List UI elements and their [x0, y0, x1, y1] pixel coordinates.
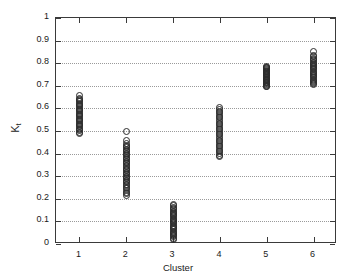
y-axis-tick-label: 0.1 [5, 215, 49, 224]
scatter-chart-figure: 00.10.20.30.40.50.60.70.80.91 123456 Kt … [0, 0, 356, 280]
y-axis-tick [330, 199, 335, 200]
x-axis-tick-label: 6 [298, 250, 328, 259]
y-axis-tick-label: 0.9 [5, 35, 49, 44]
data-point [123, 137, 130, 144]
x-axis-tick-label: 1 [63, 250, 93, 259]
y-axis-tick-label: 0.8 [5, 57, 49, 66]
x-axis-tick [79, 237, 80, 242]
y-axis-tick [330, 41, 335, 42]
y-axis-tick [56, 63, 61, 64]
y-axis-title: Kt [9, 111, 21, 145]
y-axis-tick [330, 86, 335, 87]
y-axis-tick [56, 41, 61, 42]
gridline [56, 221, 335, 222]
y-axis-tick [56, 154, 61, 155]
y-axis-tick [330, 176, 335, 177]
y-axis-tick-label: 0.3 [5, 170, 49, 179]
gridline [56, 154, 335, 155]
gridline [56, 108, 335, 109]
x-axis-tick-label: 3 [157, 250, 187, 259]
x-axis-tick [220, 18, 221, 23]
y-axis-tick [330, 221, 335, 222]
y-axis-tick [330, 154, 335, 155]
y-axis-tick [330, 244, 335, 245]
x-axis-tick [79, 18, 80, 23]
x-axis-tick [220, 237, 221, 242]
y-axis-tick [56, 86, 61, 87]
x-axis-tick [173, 18, 174, 23]
gridline [56, 41, 335, 42]
y-axis-tick [330, 18, 335, 19]
y-axis-tick [56, 221, 61, 222]
y-axis-tick [56, 131, 61, 132]
gridline [56, 199, 335, 200]
x-axis-tick [126, 18, 127, 23]
data-point [170, 201, 177, 208]
y-axis-tick [330, 63, 335, 64]
plot-area [55, 17, 336, 243]
y-axis-tick-label: 0.7 [5, 80, 49, 89]
x-axis-tick [267, 237, 268, 242]
gridline [56, 176, 335, 177]
gridline [56, 63, 335, 64]
x-axis-tick-label: 5 [251, 250, 281, 259]
y-axis-tick [56, 108, 61, 109]
gridline [56, 131, 335, 132]
x-axis-tick [267, 18, 268, 23]
x-axis-tick-label: 2 [110, 250, 140, 259]
y-axis-tick [56, 176, 61, 177]
y-axis-tick-label: 0 [5, 238, 49, 247]
x-axis-title: Cluster [0, 262, 356, 273]
y-axis-tick [330, 131, 335, 132]
x-axis-tick [314, 237, 315, 242]
y-axis-tick-label: 0.4 [5, 148, 49, 157]
y-axis-tick [56, 244, 61, 245]
x-axis-tick-label: 4 [204, 250, 234, 259]
y-axis-tick-label: 0.2 [5, 193, 49, 202]
y-axis-tick [56, 199, 61, 200]
data-point [123, 128, 130, 135]
gridline [56, 86, 335, 87]
y-axis-tick [56, 18, 61, 19]
x-axis-tick [126, 237, 127, 242]
y-axis-tick-label: 1 [5, 12, 49, 21]
y-axis-tick [330, 108, 335, 109]
x-axis-tick [314, 18, 315, 23]
